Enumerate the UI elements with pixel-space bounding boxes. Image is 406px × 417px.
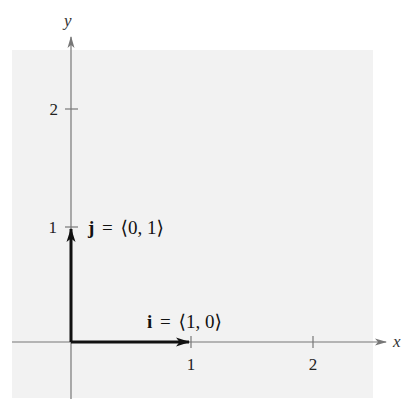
y-tick-label-2: 2 [50,100,59,119]
vector-i-symbol: i [147,311,152,332]
plot-background [12,50,373,398]
vector-j-components: ⟨0, 1⟩ [121,217,164,238]
unit-vectors-diagram: 1 2 1 2 x y j = ⟨0, 1⟩ i = ⟨1, 0⟩ [0,0,406,417]
vector-i-components: ⟨1, 0⟩ [179,311,222,332]
x-tick-label-2: 2 [309,355,318,374]
vector-i-equals: = [160,311,171,332]
vector-j-equals: = [102,217,113,238]
y-axis-label: y [62,11,72,30]
y-tick-label-1: 1 [49,218,58,237]
vector-j-label: j = ⟨0, 1⟩ [87,217,164,238]
vector-j-symbol: j [87,217,94,238]
x-axis-label: x [392,332,401,351]
x-tick-label-1: 1 [187,355,196,374]
